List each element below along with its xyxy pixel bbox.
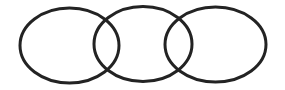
ellipse-right [165,7,266,82]
venn-diagram [0,0,285,90]
